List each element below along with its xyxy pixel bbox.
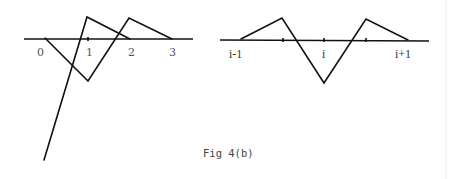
right-panel: i-1 i i+1 — [220, 18, 429, 83]
right-tick-label-i-minus-1: i-1 — [229, 47, 242, 61]
figure-4b: 0 1 2 3 i-1 i i+1 Fig 4(b) — [0, 0, 449, 179]
left-panel: 0 1 2 3 — [24, 17, 193, 160]
right-tick-label-i: i — [322, 47, 326, 61]
left-tick-label-2: 2 — [128, 46, 135, 59]
right-tick-label-i-plus-1: i+1 — [395, 47, 411, 61]
left-tick-label-3: 3 — [169, 46, 176, 59]
left-tick-label-1: 1 — [86, 46, 93, 59]
figure-caption: Fig 4(b) — [203, 147, 254, 159]
left-tick-label-0: 0 — [37, 46, 44, 59]
